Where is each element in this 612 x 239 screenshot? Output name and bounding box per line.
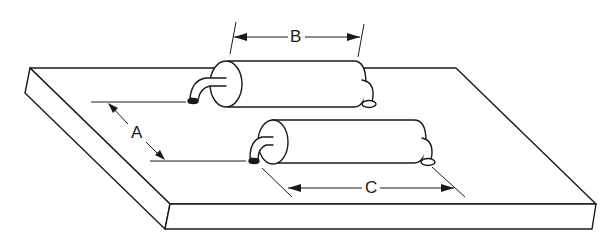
lower-component	[249, 120, 435, 166]
board-diagram	[0, 0, 612, 239]
dimension-label-b: B	[289, 28, 302, 45]
dimension-label-c: C	[364, 179, 378, 196]
diagram-canvas: B A C	[0, 0, 612, 239]
dimension-label-a: A	[130, 124, 143, 141]
upper-component	[188, 61, 376, 108]
